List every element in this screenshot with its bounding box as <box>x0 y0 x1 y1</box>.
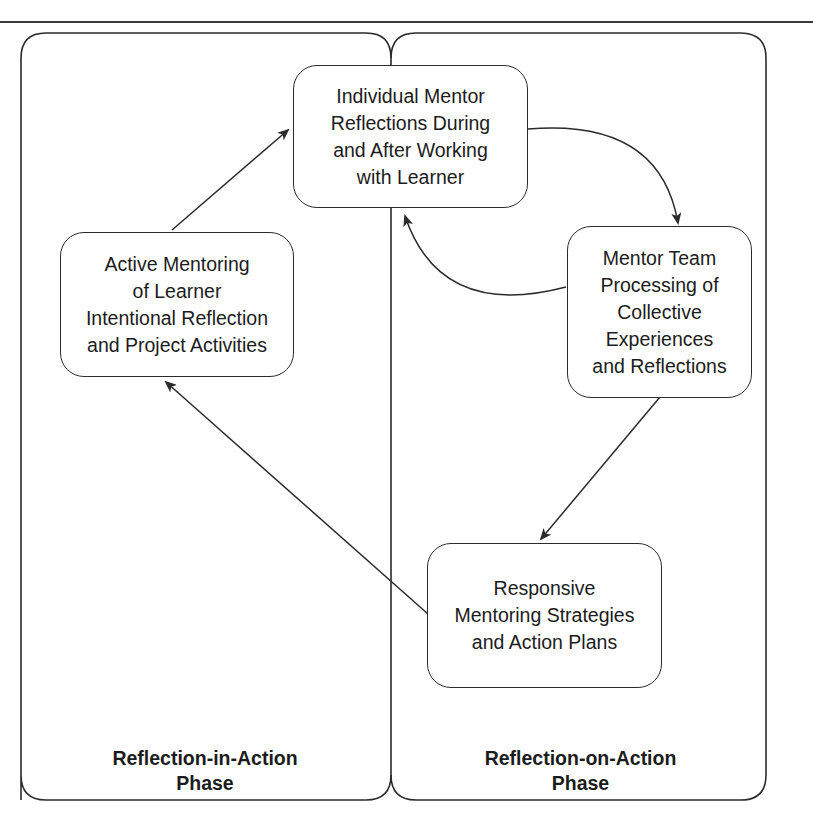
arrow-team-to-individual <box>405 216 566 295</box>
arrow-team-to-responsive <box>541 397 660 539</box>
phase-label-on-action: Reflection-on-Action Phase <box>413 746 748 796</box>
arrow-individual-to-team <box>528 128 678 223</box>
node-label: Individual Mentor Reflections During and… <box>331 83 490 191</box>
phase-label-in-action: Reflection-in-Action Phase <box>40 746 370 796</box>
arrow-responsive-to-active <box>166 382 428 614</box>
node-individual-mentor-reflections: Individual Mentor Reflections During and… <box>293 65 528 208</box>
node-label: Active Mentoring of Learner Intentional … <box>86 251 268 359</box>
node-label: Responsive Mentoring Strategies and Acti… <box>455 575 635 656</box>
node-responsive-mentoring: Responsive Mentoring Strategies and Acti… <box>427 543 662 688</box>
arrow-active-to-individual <box>172 130 288 230</box>
node-label: Mentor Team Processing of Collective Exp… <box>592 245 726 380</box>
node-mentor-team-processing: Mentor Team Processing of Collective Exp… <box>567 226 752 398</box>
node-active-mentoring: Active Mentoring of Learner Intentional … <box>60 232 294 377</box>
